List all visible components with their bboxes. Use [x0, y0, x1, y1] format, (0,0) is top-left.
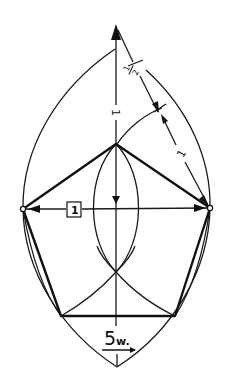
swing-arc [117, 108, 162, 144]
svg-text:1: 1 [174, 148, 189, 161]
diagonal-segment-3 [164, 120, 176, 145]
half-den: 2 [131, 69, 141, 77]
outer-arc-right [117, 70, 210, 367]
diagonal-unit-label: 1 [174, 148, 189, 161]
labels: 1 2 1 1 1 5w. [67, 62, 189, 353]
vertex-left-dot [20, 206, 25, 211]
arrow-diagonal-up-icon [161, 114, 168, 124]
boxed-width-label: 1 [71, 204, 79, 217]
width-line-right [82, 208, 208, 209]
lower-cusp-arcs [61, 246, 175, 316]
arrow-down-icon [112, 196, 120, 204]
diagonal-measure [117, 30, 209, 207]
arrow-left-icon [28, 205, 40, 213]
diagram-canvas: 1 2 1 1 1 5w. [0, 0, 225, 392]
lower-arc-right [116, 272, 175, 316]
lens-arc-left [94, 144, 117, 272]
bottom-label-text: 5 [104, 327, 116, 349]
bottom-label: 5w. [104, 327, 130, 349]
vertex-right-dot [207, 205, 212, 210]
bottom-label-suffix: w. [116, 335, 130, 348]
diagonal-segment-1 [118, 30, 133, 62]
pentagon-construction-diagram: 1 2 1 1 1 5w. [0, 0, 225, 392]
vertical-unit-label: 1 [109, 109, 122, 116]
svg-text:1: 1 [109, 109, 122, 116]
lower-arc-left [61, 272, 116, 316]
tick-half [128, 60, 143, 66]
underline-arrow-icon [130, 347, 136, 353]
